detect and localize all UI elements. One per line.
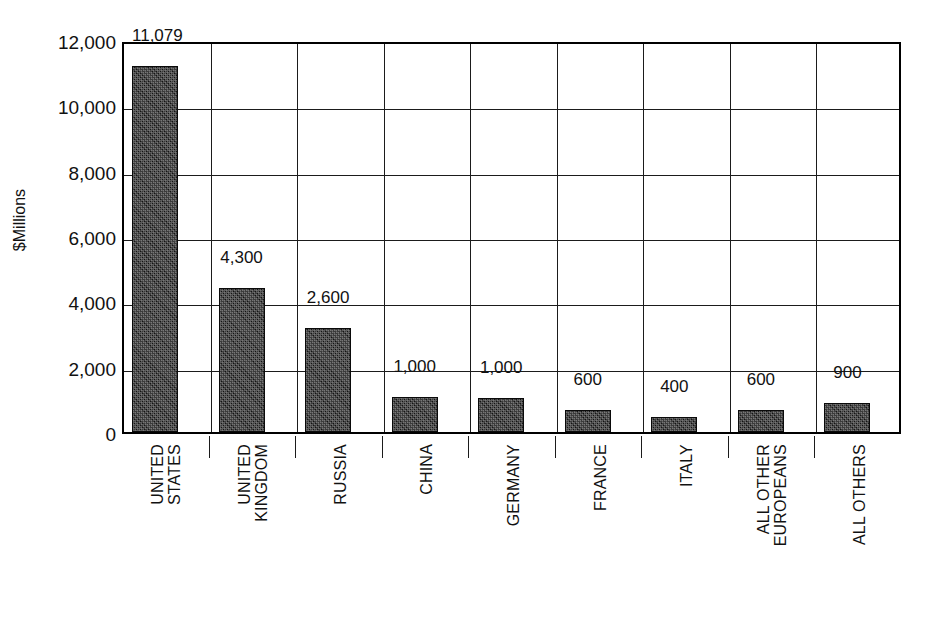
bar-value-label: 1,000 — [392, 358, 438, 375]
x-axis-tick-mark — [209, 436, 210, 458]
x-axis-category-label: UNITEDSTATES — [149, 444, 187, 614]
y-axis-title-label: $Millions — [11, 189, 29, 251]
bar-value-label: 600 — [738, 371, 784, 388]
x-axis-category-label-line: EUROPEANS — [772, 444, 789, 546]
bar-group: 1,000 — [470, 44, 557, 432]
x-axis-tick-mark — [728, 436, 729, 458]
y-axis-tick-label: 10,000 — [38, 98, 116, 117]
bar-group: 400 — [643, 44, 730, 432]
bar-group: 600 — [557, 44, 644, 432]
bar-value-label: 600 — [565, 371, 611, 388]
x-axis-category-label: FRANCE — [592, 444, 611, 614]
bar-group: 11,079 — [124, 44, 211, 432]
x-axis-tick-mark — [555, 436, 556, 458]
x-axis-category-label-line: CHINA — [418, 444, 435, 495]
x-axis-category-label-line: UNITED — [236, 444, 253, 505]
x-axis-tick-mark — [382, 436, 383, 458]
x-axis-category-label-line: UNITED — [149, 444, 166, 505]
x-axis-category-label: ALL OTHERS — [851, 444, 870, 614]
bar — [478, 398, 524, 432]
bar — [824, 403, 870, 432]
y-axis-tick-labels: 02,0004,0006,0008,00010,00012,000 — [36, 0, 116, 619]
bar-group: 900 — [816, 44, 903, 432]
x-axis-category-label-line: ALL OTHERS — [851, 444, 868, 545]
x-axis-category-label-line: ITALY — [678, 444, 695, 487]
bar — [565, 410, 611, 432]
bar-value-label: 900 — [824, 364, 870, 381]
y-axis-tick-label: 4,000 — [38, 294, 116, 313]
bar-value-label: 11,079 — [132, 27, 178, 44]
x-axis-category-label: CHINA — [418, 444, 437, 614]
bar-group: 2,600 — [297, 44, 384, 432]
bar-chart: $Millions 02,0004,0006,0008,00010,00012,… — [0, 0, 936, 619]
bar-group: 1,000 — [384, 44, 471, 432]
x-axis-category-label-line: KINGDOM — [253, 444, 270, 522]
x-axis-category-label: ITALY — [678, 444, 697, 614]
x-axis-tick-mark — [295, 436, 296, 458]
y-axis-tick-label: 0 — [38, 425, 116, 444]
x-axis-category-label: GERMANY — [505, 444, 524, 614]
x-axis-category-label: RUSSIA — [332, 444, 351, 614]
x-axis-tick-mark — [641, 436, 642, 458]
bar-value-label: 2,600 — [305, 289, 351, 306]
bar — [651, 417, 697, 432]
x-axis-category-label-line: FRANCE — [592, 444, 609, 511]
y-axis-tick-label: 6,000 — [38, 229, 116, 248]
x-axis-category-label-line: RUSSIA — [332, 444, 349, 505]
x-axis-category-label-line: ALL OTHER — [755, 444, 772, 534]
bar — [132, 66, 178, 432]
x-axis-category-label: UNITEDKINGDOM — [236, 444, 274, 614]
x-axis-category-label-line: STATES — [166, 444, 183, 505]
bar — [305, 328, 351, 432]
bar-value-label: 400 — [651, 378, 697, 395]
x-axis-category-label-line: GERMANY — [505, 444, 522, 526]
plot-area: 11,0794,3002,6001,0001,000600400600900 — [122, 42, 901, 434]
bar — [392, 397, 438, 432]
bar-value-label: 4,300 — [219, 249, 265, 266]
x-axis-tick-mark — [814, 436, 815, 458]
bar-group: 4,300 — [211, 44, 298, 432]
bar — [219, 288, 265, 432]
y-axis-tick-label: 12,000 — [38, 33, 116, 52]
x-axis-category-label: ALL OTHEREUROPEANS — [755, 444, 793, 614]
y-axis-tick-label: 2,000 — [38, 359, 116, 378]
bar-group: 600 — [730, 44, 817, 432]
bar — [738, 410, 784, 432]
bar-value-label: 1,000 — [478, 359, 524, 376]
y-axis-title: $Millions — [0, 0, 40, 440]
x-axis-tick-mark — [468, 436, 469, 458]
y-axis-tick-label: 8,000 — [38, 163, 116, 182]
